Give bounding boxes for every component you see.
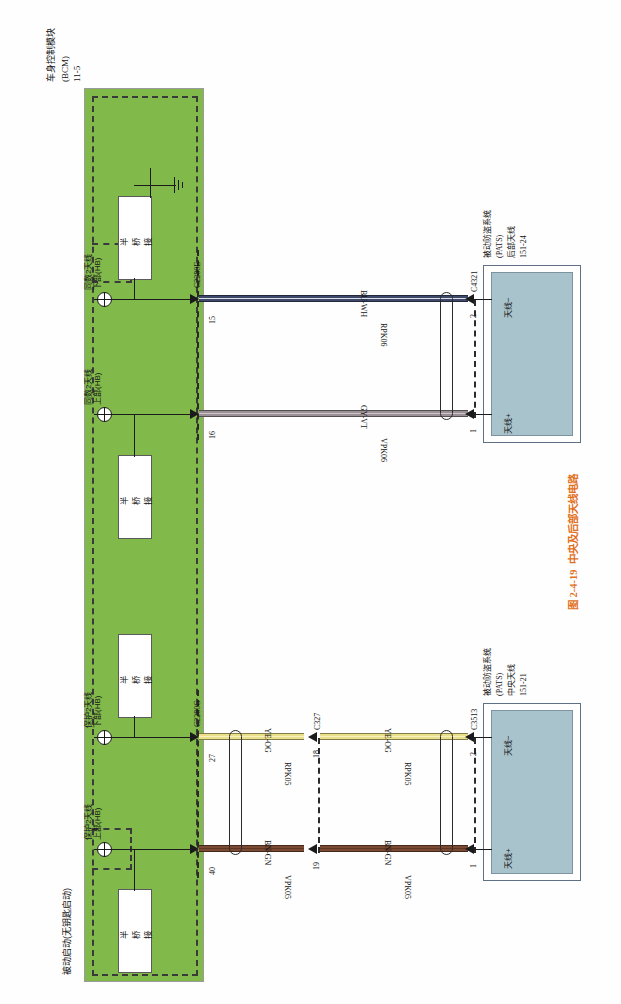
splice-lower-right: [440, 730, 453, 855]
wire-color-code-gy-vt: GY-VT: [368, 405, 392, 414]
harness-wire-gy-vt: [199, 410, 468, 417]
splice-lower-left: [229, 730, 242, 855]
lead-rear-antenna-pos: [474, 414, 492, 415]
connector-pin-c327-19: 19: [312, 870, 320, 879]
terminal-label-rear-pos: 天线+: [504, 434, 525, 443]
pin-function-label-3: 保护2天线 下部(HB): [84, 728, 120, 747]
pin-function-label-4: 保护2天线 上部(HB): [84, 840, 120, 859]
connector-pin-c3513-1: 1: [469, 868, 473, 877]
wire-hb1-to-ground: [150, 186, 151, 198]
connector-pin-c2280e-16: 16: [208, 439, 216, 448]
connector-arrow-c2280g-40: [190, 844, 199, 854]
diagram-canvas: 车身控制模块 (BCM) 11-5 被动启动(无钥匙启动) 半桥接 同数2天线: [0, 0, 621, 1004]
splice-upper: [440, 292, 453, 420]
harness-wire-bu-wh: [199, 295, 468, 302]
figure-caption: 图 2-4-19 中央及后部天线电路: [568, 610, 621, 622]
wire-circuit-code-rpk06: RPK06: [388, 323, 412, 332]
wire-color-code-ye-og-right: YE-OG: [392, 728, 417, 737]
connector-arrow-c2280e-16: [190, 409, 199, 419]
pin-function-label-2: 同数2天线 上部(HB): [84, 405, 120, 424]
terminal-label-center-neg: 天线−: [504, 756, 525, 765]
connector-pin-c4321-1: 1: [469, 433, 473, 442]
connector-arrow-c327-19: [308, 844, 317, 854]
wire-node40-right: [111, 849, 197, 850]
wire-color-code-bn-gn-left: BN-GN: [272, 840, 297, 849]
wire-node16-right: [111, 414, 197, 415]
connector-pin-c3513-2: 2: [469, 756, 473, 765]
device-center-antenna-name-line4: 151-21: [519, 696, 542, 705]
wire-circuit-code-vpk06: VPK06: [388, 438, 412, 447]
pin-function-label-1: 同数2天线 下部(HB): [84, 290, 120, 309]
wire-hb1-down: [134, 278, 135, 300]
lead-rear-antenna-neg: [474, 299, 492, 300]
wire-node27-right: [111, 737, 197, 738]
wire-hb2-up: [134, 415, 135, 457]
wire-color-code-bn-gn-right: BN-GN: [392, 840, 417, 849]
wire-hb1-ground-jog: [134, 185, 151, 186]
terminal-label-rear-neg: 天线−: [504, 318, 525, 327]
wire-hb4-up: [134, 850, 135, 891]
connector-pin-c2280g-40: 40: [208, 875, 216, 884]
wire-circuit-code-rpk05-right: RPK05: [412, 762, 436, 771]
half-bridge-block-4: 半桥接: [118, 889, 152, 973]
wire-color-code-ye-og-left: YE-OG: [272, 728, 297, 737]
connector-arrow-c4321-1: [465, 409, 474, 419]
wire-hb3-down: [134, 716, 135, 738]
half-bridge-block-1: 半桥接: [118, 196, 152, 280]
connector-pin-c327-18: 18: [312, 758, 320, 767]
half-bridge-block-2: 半桥接: [118, 455, 152, 539]
device-rear-antenna-name-line4: 151-24: [519, 258, 542, 267]
connector-pin-c2280e-15: 15: [208, 324, 216, 333]
connector-arrow-c3513-1: [465, 844, 474, 854]
connector-pin-c2280g-27: 27: [208, 762, 216, 771]
lead-center-antenna-pos: [474, 849, 492, 850]
wire-color-code-bu-wh: BU-WH: [368, 290, 395, 299]
connector-pin-c4321-2: 2: [469, 318, 473, 327]
wire-circuit-code-vpk05-right: VPK05: [412, 875, 436, 884]
half-bridge-block-3: 半桥接: [118, 634, 152, 718]
wire-node15-right: [111, 299, 197, 300]
terminal-label-center-pos: 天线+: [504, 869, 525, 878]
lead-center-antenna-neg: [474, 737, 492, 738]
